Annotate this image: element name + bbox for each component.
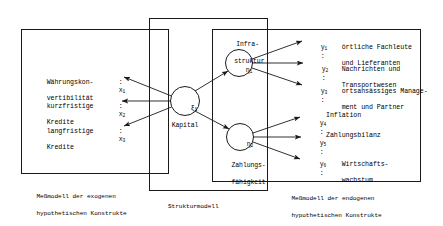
node-caption-zahlungsfaehigkeit: Zahlungs- fähigkeit [216,154,266,195]
indicator-label-y4: Inflation [326,112,361,120]
indicator-label-x3: langfristige Kredite [31,120,94,160]
caption-endogenous-measurement-model: Meßmodell der endogenen hypothetischen K… [277,187,382,226]
caption-structural-model: Strukturmodell [168,203,219,211]
node-label-xi-1: ξ1 [175,97,195,123]
indicator-symbol-x3: : x3 [103,120,125,153]
indicator-label-y5: Zahlungsbilanz [326,132,381,140]
node-caption-kapital: Kapital [165,122,205,130]
indicator-symbol-y3: y3 : [305,80,327,113]
node-caption-infrastruktur: Infra- struktur [219,33,261,74]
path-xi1-to-x1 [124,77,172,96]
structural-equation-diagram: Währungskon- vertibilität : x1 kurzfrist… [0,0,443,226]
indicator-symbol-y6: y6 : [304,153,326,186]
caption-exogenous-measurement-model: Meßmodell der exogenen hypothetischen Ko… [22,185,127,226]
path-eta2-to-y4 [253,117,300,133]
